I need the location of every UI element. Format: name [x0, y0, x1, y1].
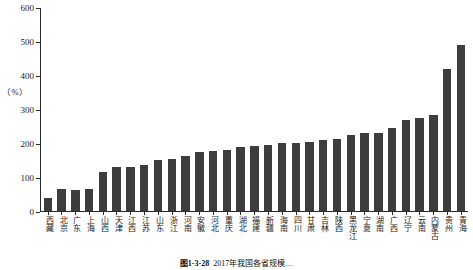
x-axis-tick [254, 211, 255, 215]
bar-slot [248, 8, 262, 211]
x-axis-category-label: 广西 [388, 216, 397, 232]
x-axis-tick [144, 211, 145, 215]
y-axis-tick-label: 300 [4, 106, 34, 115]
x-axis-tick [185, 211, 186, 215]
y-axis-tick [36, 178, 40, 179]
bar-slot [165, 8, 179, 211]
x-axis-category-label: 黑龙江 [347, 216, 356, 240]
x-axis-category-label: 安徽 [195, 216, 204, 232]
bar-slot [454, 8, 468, 211]
bar-slot [124, 8, 138, 211]
bar-slot [358, 8, 372, 211]
bar-slot [179, 8, 193, 211]
bar [347, 135, 355, 211]
x-axis-tick [103, 211, 104, 215]
bar [457, 45, 465, 211]
x-axis-tick [172, 211, 173, 215]
x-axis-tick [351, 211, 352, 215]
x-axis-category-label: 青海 [457, 216, 466, 232]
x-axis-category-label: 山西 [99, 216, 108, 232]
x-axis-category-label: 四川 [292, 216, 301, 232]
x-axis-category-label: 广东 [71, 216, 80, 232]
bar-slot [234, 8, 248, 211]
bar-slot [385, 8, 399, 211]
bar-slot [399, 8, 413, 211]
bar [168, 159, 176, 211]
x-axis-tick [48, 211, 49, 215]
bar-slot [330, 8, 344, 211]
x-axis-tick [89, 211, 90, 215]
bar [209, 151, 217, 211]
bar-slot [206, 8, 220, 211]
x-axis-category-label: 河北 [209, 216, 218, 232]
y-axis-tick-label: 500 [4, 38, 34, 47]
x-axis-tick [392, 211, 393, 215]
x-axis-category-label: 上海 [85, 216, 94, 232]
x-axis-category-label: 天津 [113, 216, 122, 232]
bar-slot [96, 8, 110, 211]
bar [99, 172, 107, 211]
bar [181, 156, 189, 211]
x-axis-category-label: 湖北 [237, 216, 246, 232]
x-axis-category-label: 贵州 [443, 216, 452, 232]
bar [112, 167, 120, 211]
bar [250, 146, 258, 211]
x-axis-tick [378, 211, 379, 215]
x-axis-category-label: 海南 [278, 216, 287, 232]
bar [415, 118, 423, 211]
x-axis-category-label: 福建 [250, 216, 259, 232]
x-axis-tick [199, 211, 200, 215]
bar-slot [275, 8, 289, 211]
x-axis-tick [406, 211, 407, 215]
bar [305, 142, 313, 211]
bar-slot [82, 8, 96, 211]
x-axis-tick [461, 211, 462, 215]
x-axis-tick [158, 211, 159, 215]
bar [443, 69, 451, 211]
bar-slot [193, 8, 207, 211]
x-axis-category-label: 湖南 [374, 216, 383, 232]
y-axis-tick [36, 144, 40, 145]
x-axis-category-label: 辽宁 [402, 216, 411, 232]
x-axis-tick [116, 211, 117, 215]
bar-slot [137, 8, 151, 211]
bar-slot [41, 8, 55, 211]
x-axis-tick [227, 211, 228, 215]
x-axis-category-label: 浙江 [168, 216, 177, 232]
y-axis-tick [36, 8, 40, 9]
x-axis-category-label: 宁夏 [360, 216, 369, 232]
bar [402, 120, 410, 211]
x-axis-tick [240, 211, 241, 215]
bar [195, 152, 203, 211]
bar [57, 189, 65, 211]
x-axis-tick [75, 211, 76, 215]
x-axis-tick [433, 211, 434, 215]
bar-slot [110, 8, 124, 211]
x-axis-tick [282, 211, 283, 215]
x-axis-category-label: 云南 [416, 216, 425, 232]
bar [126, 167, 134, 211]
x-axis-tick [337, 211, 338, 215]
y-axis-tick-label: 400 [4, 72, 34, 81]
x-axis-tick [268, 211, 269, 215]
x-axis-tick [296, 211, 297, 215]
y-axis-tick [36, 212, 40, 213]
x-axis-tick [130, 211, 131, 215]
x-axis-category-label: 北京 [57, 216, 66, 232]
x-axis-category-label: 江苏 [140, 216, 149, 232]
x-axis-category-label: 江西 [126, 216, 135, 232]
x-axis-category-label: 甘肃 [305, 216, 314, 232]
y-axis-tick-label: 600 [4, 4, 34, 13]
bar-slot [289, 8, 303, 211]
bar [333, 139, 341, 211]
x-axis-category-label: 山东 [154, 216, 163, 232]
bar [85, 189, 93, 211]
bar [360, 133, 368, 211]
y-axis-unit-label: （%） [2, 88, 28, 97]
bar-slot [220, 8, 234, 211]
bar-slot [261, 8, 275, 211]
bar-slot [316, 8, 330, 211]
bar [388, 128, 396, 211]
bar-slot [344, 8, 358, 211]
bar [154, 160, 162, 211]
